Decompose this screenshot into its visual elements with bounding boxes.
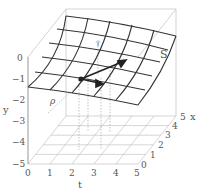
svg-text:1: 1 <box>47 168 53 178</box>
point-label: ρ <box>49 96 56 106</box>
svg-text:−1: −1 <box>12 74 25 84</box>
svg-text:−5: −5 <box>12 159 26 169</box>
svg-text:2: 2 <box>69 168 75 178</box>
svg-text:0: 0 <box>141 160 147 170</box>
svg-text:2: 2 <box>158 140 164 150</box>
svg-text:−4: −4 <box>12 137 26 147</box>
surface-figure: S ρ T 0 −1 −2 −3 −4 −5 y 0 1 2 3 4 5 t 0… <box>0 0 215 191</box>
svg-text:4: 4 <box>172 121 178 131</box>
y-axis: 0 −1 −2 −3 −4 −5 y <box>2 53 28 169</box>
t-axis: 0 1 2 3 4 5 t <box>25 168 140 190</box>
svg-text:0: 0 <box>17 53 23 63</box>
svg-text:1: 1 <box>150 150 156 160</box>
x-axis: 0 1 2 3 4 5 x <box>141 111 196 170</box>
svg-text:5: 5 <box>180 112 186 122</box>
t-axis-label: t <box>78 179 82 190</box>
projection-lines <box>48 40 110 150</box>
svg-text:4: 4 <box>113 168 119 178</box>
tangent-arrows <box>79 60 126 87</box>
y-axis-label: y <box>2 104 9 115</box>
surface-label: S <box>160 48 168 61</box>
svg-text:3: 3 <box>91 168 97 178</box>
svg-text:0: 0 <box>25 168 31 178</box>
x-axis-label: x <box>190 111 196 122</box>
svg-text:−2: −2 <box>12 95 25 105</box>
svg-text:3: 3 <box>165 130 171 140</box>
small-label: T <box>96 40 100 47</box>
svg-text:−3: −3 <box>12 116 26 126</box>
svg-text:5: 5 <box>134 168 140 178</box>
